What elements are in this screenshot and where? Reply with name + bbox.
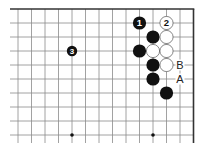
white-stone-icon [160,44,173,57]
black-stone-icon [146,58,159,71]
star-point-icon [151,133,155,137]
stone-move-number: 1 [137,17,143,28]
point-label-a: A [176,73,184,85]
black-stone-icon [160,86,173,99]
black-stone-icon [146,30,159,43]
white-stone [160,58,173,71]
white-stone-icon [160,30,173,43]
star-point-icon [70,133,74,137]
stone-move-number: 3 [70,47,75,56]
white-stone-2: 2 [160,16,173,29]
black-stone-icon [133,44,146,57]
white-stone-icon [160,58,173,71]
black-stone-3: 3 [67,46,77,56]
stone-move-number: 2 [164,17,169,28]
black-stone [146,58,159,71]
black-stone [146,72,159,85]
black-stone [133,44,146,57]
black-stone-icon [146,72,159,85]
black-stone-1: 1 [133,16,146,29]
white-stone [146,44,159,57]
white-stone [160,30,173,43]
black-stone [160,86,173,99]
stones-layer: 123 [67,16,173,99]
black-stone [146,30,159,43]
go-board-diagram: 123 BA [0,0,205,153]
white-stone [160,44,173,57]
point-label-b: B [176,59,183,71]
white-stone-icon [146,44,159,57]
